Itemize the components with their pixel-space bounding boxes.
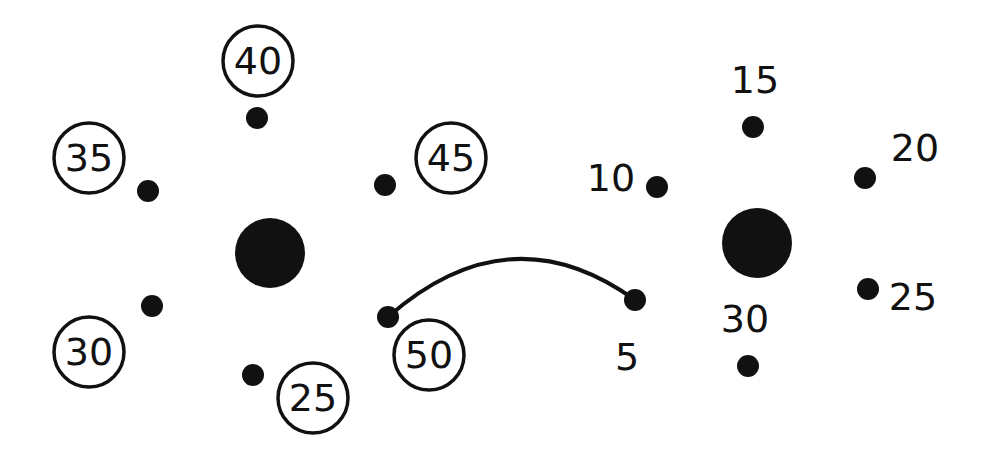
connector-arc: [388, 259, 635, 317]
clock-mark-35: 35: [54, 123, 159, 202]
mark-label: 40: [234, 39, 282, 83]
mark-label: 25: [889, 275, 937, 319]
dot: [377, 306, 399, 328]
clock-center-dot: [235, 218, 305, 288]
mark-label: 15: [731, 58, 779, 102]
mark-label: 10: [587, 156, 635, 200]
right-clock: 15202530510: [587, 58, 939, 379]
dot: [242, 364, 264, 386]
dot: [246, 107, 268, 129]
clock-mark-20: 20: [854, 126, 939, 189]
clock-mark-30: 30: [54, 295, 163, 387]
dot: [137, 180, 159, 202]
clock-center-dot: [722, 208, 792, 278]
clock-mark-25: 25: [242, 363, 348, 433]
mark-label: 25: [289, 376, 337, 420]
dot: [141, 295, 163, 317]
mark-label: 30: [65, 330, 113, 374]
dot: [857, 278, 879, 300]
clock-mark-45: 45: [374, 123, 486, 196]
clock-mark-10: 10: [587, 156, 668, 200]
mark-label: 45: [427, 136, 475, 180]
dot: [646, 176, 668, 198]
mark-label: 20: [891, 126, 939, 170]
clock-mark-5: 5: [615, 289, 646, 379]
dot: [737, 355, 759, 377]
dot: [854, 167, 876, 189]
clock-dot-diagram: 40455025303515202530510: [0, 0, 985, 466]
mark-label: 5: [615, 335, 639, 379]
mark-label: 35: [65, 136, 113, 180]
dot: [624, 289, 646, 311]
clock-mark-50: 50: [377, 306, 464, 390]
diagram-canvas: 40455025303515202530510: [0, 0, 985, 466]
mark-label: 30: [721, 297, 769, 341]
clock-mark-25: 25: [857, 275, 937, 319]
dot: [374, 174, 396, 196]
clock-mark-15: 15: [731, 58, 779, 138]
left-clock: 404550253035: [54, 26, 486, 433]
clock-mark-40: 40: [223, 26, 293, 129]
dot: [742, 116, 764, 138]
mark-label: 50: [405, 333, 453, 377]
clock-mark-30: 30: [721, 297, 769, 377]
